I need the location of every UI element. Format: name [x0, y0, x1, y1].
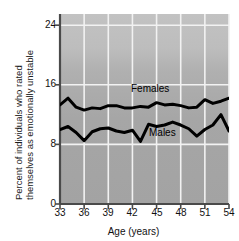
x-tick-label: 45 — [146, 208, 168, 218]
x-tick-label: 51 — [194, 208, 216, 218]
x-tick-label: 42 — [121, 208, 143, 218]
series-label-females: Females — [131, 83, 169, 94]
x-tick-label: 36 — [73, 208, 95, 218]
x-tick-label: 39 — [97, 208, 119, 218]
x-tick-label: 48 — [170, 208, 192, 218]
x-axis-label-text: Age (years) — [80, 226, 160, 237]
plot-area — [0, 0, 239, 241]
x-axis-label: Age (years) — [0, 226, 239, 237]
series-label-males: Males — [149, 127, 176, 138]
x-tick-label: 33 — [49, 208, 71, 218]
x-tick-label: 54 — [218, 208, 239, 218]
chart-container: Percent of individuals who rated themsel… — [0, 0, 239, 241]
